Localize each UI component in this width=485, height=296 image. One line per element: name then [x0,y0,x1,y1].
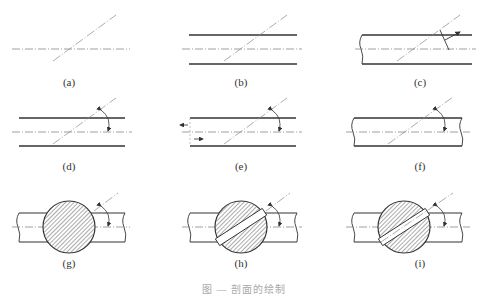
panel-c-label: (c) [414,76,426,88]
panel-e-label: (e) [235,160,247,172]
panel-b [182,15,302,64]
panel-f-label: (f) [415,160,426,172]
figure-caption: 图 — 剖面的绘制 [202,281,286,296]
panel-g-label: (g) [63,257,76,269]
panel-c [355,15,476,64]
panel-i-label: (i) [415,257,425,269]
panel-a-label: (a) [63,76,75,88]
panel-i [346,193,470,253]
panel-b-label: (b) [235,76,248,88]
panel-g [12,193,130,253]
panel-h [182,193,302,253]
panel-e [180,98,302,146]
panel-d [12,98,132,146]
panel-d-label: (d) [63,160,76,172]
panel-a [12,15,130,61]
panel-h-label: (h) [235,257,248,269]
panel-f [346,97,470,146]
